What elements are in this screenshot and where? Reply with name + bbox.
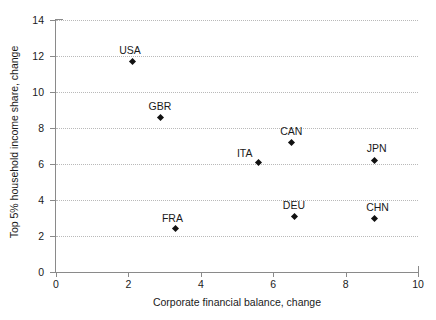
gridline-y-4	[56, 200, 418, 201]
gridline-y-2	[56, 236, 418, 237]
x-tick-label-8: 8	[331, 279, 361, 290]
data-point-label-can: CAN	[280, 126, 302, 137]
y-tick-2	[50, 236, 56, 237]
y-tick-4	[50, 200, 56, 201]
gridline-y-6	[56, 164, 418, 165]
y-tick-10	[50, 92, 56, 93]
data-point-label-usa: USA	[119, 45, 141, 56]
x-tick-label-10: 10	[403, 279, 433, 290]
y-axis-line	[55, 19, 56, 273]
x-tick-label-0: 0	[41, 279, 71, 290]
y-axis-end-cap	[56, 19, 63, 20]
gridline-y-10	[56, 92, 418, 93]
y-tick-label-2: 2	[0, 231, 44, 242]
x-tick-4	[201, 272, 202, 277]
y-tick-label-8: 8	[0, 123, 44, 134]
x-tick-label-2: 2	[113, 279, 143, 290]
data-point-label-deu: DEU	[283, 200, 305, 211]
x-tick-label-6: 6	[258, 279, 288, 290]
y-tick-12	[50, 56, 56, 57]
scatter-chart-figure: Corporate financial balance, change Top …	[0, 0, 436, 320]
y-tick-label-4: 4	[0, 195, 44, 206]
data-point-label-jpn: JPN	[367, 143, 387, 154]
x-tick-8	[346, 272, 347, 277]
x-tick-2	[128, 272, 129, 277]
y-tick-label-14: 14	[0, 15, 44, 26]
x-axis-line	[55, 272, 419, 273]
x-tick-6	[273, 272, 274, 277]
plot-area	[56, 20, 418, 272]
data-point-label-gbr: GBR	[149, 101, 172, 112]
y-axis-label: Top 5% household income share, change	[8, 32, 20, 252]
y-tick-label-6: 6	[0, 159, 44, 170]
gridline-y-12	[56, 56, 418, 57]
y-tick-6	[50, 164, 56, 165]
y-tick-label-0: 0	[0, 267, 44, 278]
y-tick-label-10: 10	[0, 87, 44, 98]
data-point-label-ita: ITA	[237, 148, 253, 159]
x-tick-0	[56, 272, 57, 277]
data-point-label-chn: CHN	[366, 202, 389, 213]
gridline-y-14	[56, 20, 418, 21]
y-tick-8	[50, 128, 56, 129]
x-tick-10	[418, 272, 419, 277]
gridline-y-8	[56, 128, 418, 129]
x-axis-label: Corporate financial balance, change	[56, 296, 418, 308]
y-tick-14	[50, 20, 56, 21]
data-point-label-fra: FRA	[162, 213, 183, 224]
y-tick-label-12: 12	[0, 51, 44, 62]
x-tick-label-4: 4	[186, 279, 216, 290]
